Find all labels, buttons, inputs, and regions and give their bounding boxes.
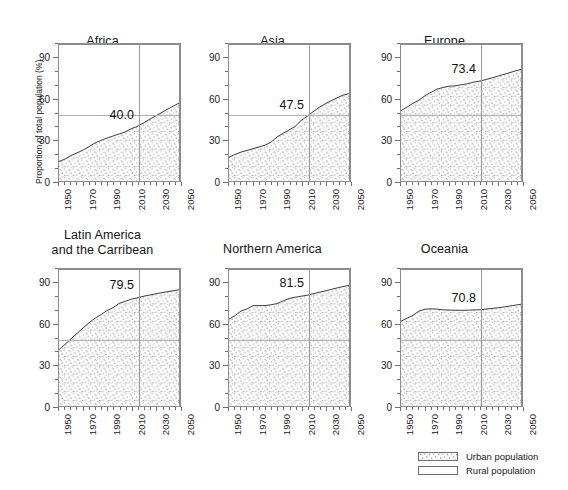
y-tick-minor (397, 338, 400, 339)
x-tick-minor (505, 407, 506, 410)
y-tick-minor (397, 351, 400, 352)
x-tick-label: 2050 (527, 414, 538, 435)
panel-title: Oceania (366, 242, 523, 257)
y-axis: 0306090 (376, 268, 400, 407)
y-tick-label: 60 (381, 318, 392, 329)
small-multiples-figure: Proportion of total population (%) Afric… (0, 0, 568, 490)
x-tick-minor (443, 407, 444, 410)
x-axis: 195019701990201020302050 (400, 407, 523, 447)
x-tick-minor (468, 407, 469, 410)
y-tick-label: 90 (381, 276, 392, 287)
x-tick-label: 1970 (429, 414, 440, 435)
x-tick-minor (517, 407, 518, 410)
panel-oceania: Oceania70.803060901950197019902010203020… (0, 0, 568, 490)
x-tick-label: 2010 (478, 414, 489, 435)
y-tick-major (395, 324, 400, 325)
legend-row-urban: Urban population (418, 450, 538, 462)
y-tick-major (395, 365, 400, 366)
x-tick-minor (492, 407, 493, 410)
x-tick-minor (406, 407, 407, 410)
legend-label-urban: Urban population (466, 451, 538, 462)
y-tick-minor (397, 268, 400, 269)
x-tick-major (523, 407, 524, 411)
rural-swatch-icon (418, 466, 458, 475)
urban-swatch-icon (418, 452, 458, 461)
x-tick-minor (480, 407, 481, 410)
legend-label-rural: Rural population (466, 465, 535, 476)
reference-line-2015 (481, 270, 482, 406)
x-tick-minor (455, 407, 456, 410)
x-tick-minor (511, 407, 512, 410)
x-tick-major (449, 407, 450, 411)
x-tick-major (400, 407, 401, 411)
legend-row-rural: Rural population (418, 464, 538, 476)
x-tick-minor (486, 407, 487, 410)
reference-line-50-percent (401, 340, 521, 341)
y-tick-minor (397, 393, 400, 394)
x-tick-minor (431, 407, 432, 410)
y-tick-minor (397, 379, 400, 380)
x-tick-label: 1950 (404, 414, 415, 435)
y-tick-minor (397, 310, 400, 311)
x-tick-major (474, 407, 475, 411)
x-tick-label: 1990 (453, 414, 464, 435)
annotation-value: 70.8 (418, 291, 476, 305)
legend: Urban population Rural population (418, 450, 538, 478)
x-tick-major (498, 407, 499, 411)
x-tick-minor (462, 407, 463, 410)
x-tick-minor (437, 407, 438, 410)
y-tick-minor (397, 296, 400, 297)
x-tick-minor (412, 407, 413, 410)
plot-area (400, 268, 523, 407)
y-tick-label: 30 (381, 360, 392, 371)
x-tick-minor (418, 407, 419, 410)
x-tick-major (425, 407, 426, 411)
x-tick-label: 2030 (502, 414, 513, 435)
y-tick-label: 0 (386, 402, 392, 413)
y-tick-major (395, 282, 400, 283)
